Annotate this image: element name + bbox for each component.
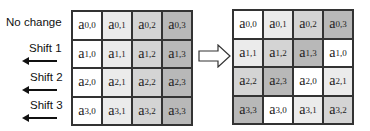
matrix-cell: a1,3 bbox=[293, 39, 323, 68]
matrix-cell: a0,3 bbox=[162, 11, 192, 40]
matrix-cell: a2,0 bbox=[72, 68, 102, 97]
matrix-cell: a0,0 bbox=[72, 11, 102, 40]
matrix-cell: a2,1 bbox=[102, 68, 132, 97]
matrix-cell: a1,2 bbox=[132, 40, 162, 69]
matrix-cell: a0,0 bbox=[233, 10, 263, 39]
matrix-cell: a0,3 bbox=[323, 10, 353, 39]
matrix-cell: a3,1 bbox=[102, 97, 132, 126]
matrix-cell: a1,1 bbox=[102, 40, 132, 69]
matrix-cell: a2,1 bbox=[323, 67, 353, 96]
matrix-cell: a0,1 bbox=[263, 10, 293, 39]
matrix-cell: a3,1 bbox=[293, 96, 323, 125]
state-matrix-after: a0,0a0,1a0,2a0,3a1,1a1,2a1,3a1,0a2,2a2,3… bbox=[232, 9, 354, 125]
matrix-cell: a2,3 bbox=[162, 68, 192, 97]
state-matrix-before: a0,0a0,1a0,2a0,3a1,0a1,1a1,2a1,3a2,0a2,1… bbox=[71, 10, 193, 126]
matrix-cell: a3,0 bbox=[72, 97, 102, 126]
matrix-cell: a1,0 bbox=[323, 39, 353, 68]
matrix-cell: a3,3 bbox=[233, 96, 263, 125]
matrix-cell: a3,0 bbox=[263, 96, 293, 125]
matrix-cell: a1,2 bbox=[263, 39, 293, 68]
matrix-cell: a3,3 bbox=[162, 97, 192, 126]
matrix-cell: a3,2 bbox=[132, 97, 162, 126]
matrix-cell: a2,0 bbox=[293, 67, 323, 96]
matrix-cell: a2,2 bbox=[233, 67, 263, 96]
matrix-cell: a3,2 bbox=[323, 96, 353, 125]
row-label-shift-3: Shift 3 bbox=[30, 99, 63, 111]
row-label-no-change: No change bbox=[6, 16, 62, 28]
matrix-cell: a0,2 bbox=[293, 10, 323, 39]
row-label-shift-1: Shift 1 bbox=[29, 42, 62, 54]
matrix-cell: a0,2 bbox=[132, 11, 162, 40]
matrix-cell: a1,1 bbox=[233, 39, 263, 68]
matrix-cell: a2,3 bbox=[263, 67, 293, 96]
matrix-cell: a2,2 bbox=[132, 68, 162, 97]
right-arrow-icon bbox=[198, 44, 232, 68]
matrix-cell: a1,0 bbox=[72, 40, 102, 69]
matrix-cell: a1,3 bbox=[162, 40, 192, 69]
matrix-cell: a0,1 bbox=[102, 11, 132, 40]
row-label-shift-2: Shift 2 bbox=[30, 71, 63, 83]
